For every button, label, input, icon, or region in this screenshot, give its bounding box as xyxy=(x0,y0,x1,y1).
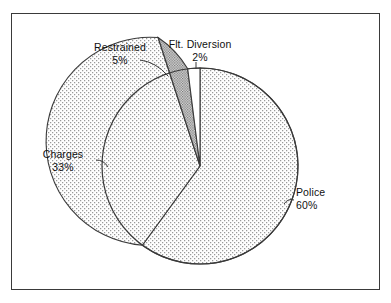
slice-label-charges-name: Charges xyxy=(28,148,98,161)
pie-chart-figure: Restrained 5% Flt. Diversion 2% Charges … xyxy=(0,0,391,303)
slice-label-police: Police 60% xyxy=(296,186,356,211)
slice-label-police-name: Police xyxy=(296,186,356,199)
slice-label-restrained-value: 5% xyxy=(82,54,158,67)
slice-label-charges: Charges 33% xyxy=(28,148,98,173)
slice-label-flt-diversion: Flt. Diversion 2% xyxy=(152,38,248,63)
slice-label-charges-value: 33% xyxy=(28,161,98,174)
slice-label-restrained: Restrained 5% xyxy=(82,41,158,66)
slice-label-flt-diversion-value: 2% xyxy=(152,51,248,64)
slice-label-flt-diversion-name: Flt. Diversion xyxy=(152,38,248,51)
slice-label-police-value: 60% xyxy=(296,199,356,212)
slice-label-restrained-name: Restrained xyxy=(82,41,158,54)
